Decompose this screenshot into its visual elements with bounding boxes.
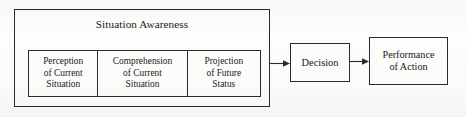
- arrow-sa-to-decision-icon: [269, 59, 291, 68]
- performance-of-action-node: Performance of Action: [369, 37, 448, 85]
- level-comprehension: Comprehension of Current Situation: [97, 51, 186, 96]
- performance-line1: Performance: [382, 49, 434, 61]
- level-projection-line1: Projection: [205, 56, 244, 67]
- level-comprehension-line1: Comprehension: [113, 56, 172, 67]
- level-projection-line3: Status: [205, 79, 244, 90]
- level-perception-text: Perception of Current Situation: [43, 56, 83, 90]
- level-perception-line3: Situation: [43, 79, 83, 90]
- level-perception-line2: of Current: [43, 68, 83, 79]
- situation-awareness-diagram: Situation Awareness Perception of Curren…: [0, 0, 466, 117]
- level-comprehension-line2: of Current: [113, 68, 172, 79]
- decision-label: Decision: [302, 57, 339, 69]
- situation-awareness-title: Situation Awareness: [14, 18, 270, 31]
- situation-awareness-levels: Perception of Current Situation Comprehe…: [28, 50, 261, 97]
- level-comprehension-line3: Situation: [113, 79, 172, 90]
- level-projection-line2: of Future: [205, 68, 244, 79]
- level-projection-text: Projection of Future Status: [205, 56, 244, 90]
- performance-line2: of Action: [382, 61, 434, 73]
- arrow-decision-to-performance-icon: [349, 57, 370, 66]
- level-comprehension-text: Comprehension of Current Situation: [113, 56, 172, 90]
- performance-of-action-label: Performance of Action: [382, 49, 434, 74]
- level-perception: Perception of Current Situation: [29, 51, 97, 96]
- level-projection: Projection of Future Status: [187, 51, 260, 96]
- decision-node: Decision: [290, 43, 350, 82]
- level-perception-line1: Perception: [43, 56, 83, 67]
